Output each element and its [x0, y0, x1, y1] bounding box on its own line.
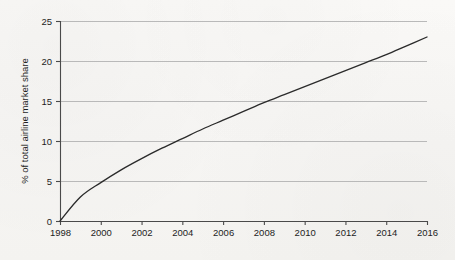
- x-tick-label: 2000: [91, 227, 112, 238]
- y-axis-ticks: [56, 22, 60, 222]
- y-tick-label: 25: [41, 16, 52, 27]
- x-tick-label: 2004: [172, 227, 193, 238]
- y-tick-label: 0: [47, 216, 52, 227]
- y-tick-label: 10: [41, 136, 52, 147]
- x-tick-label: 2002: [131, 227, 152, 238]
- chart-container: 0510152025 19982000200220042006200820102…: [0, 0, 455, 260]
- x-tick-label: 2008: [254, 227, 275, 238]
- x-tick-label: 2006: [213, 227, 234, 238]
- x-tick-label: 2014: [376, 227, 397, 238]
- y-tick-label: 15: [41, 96, 52, 107]
- x-tick-label: 2010: [295, 227, 316, 238]
- line-chart-plot: 0510152025 19982000200220042006200820102…: [0, 0, 455, 260]
- y-axis-title: % of total airline market share: [19, 58, 30, 184]
- x-axis-tick-labels: 1998200020022004200620082010201220142016: [50, 227, 438, 238]
- y-tick-label: 20: [41, 56, 52, 67]
- y-tick-label: 5: [47, 176, 52, 187]
- x-tick-label: 2016: [417, 227, 438, 238]
- x-tick-label: 1998: [50, 227, 71, 238]
- gridlines: [60, 22, 427, 182]
- y-axis-tick-labels: 0510152025: [41, 16, 52, 227]
- data-series-line: [60, 37, 427, 221]
- x-tick-label: 2012: [335, 227, 356, 238]
